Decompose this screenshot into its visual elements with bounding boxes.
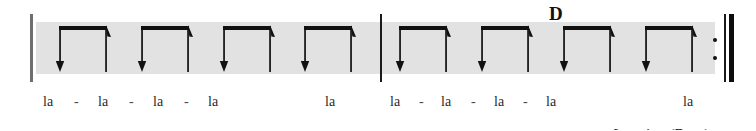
downstroke-arrowhead-2 <box>138 61 146 72</box>
strum-group-8 <box>638 26 700 80</box>
strum-group-5 <box>392 26 454 80</box>
caption-italic: Last time <box>613 126 667 131</box>
downstroke-arrowhead-5 <box>396 61 404 72</box>
strum-group-6 <box>474 26 536 80</box>
lyric-syllable-7: la <box>325 95 335 109</box>
beam-6 <box>481 26 529 30</box>
upstroke-stem-1 <box>105 28 107 72</box>
upstroke-stem-3 <box>269 28 271 72</box>
lyric-syllable-10: la <box>441 95 451 109</box>
beam-8 <box>645 26 693 30</box>
downstroke-arrowhead-8 <box>642 61 650 72</box>
downstroke-stem-7 <box>563 26 565 65</box>
beam-3 <box>223 26 271 30</box>
downstroke-arrowhead-1 <box>56 61 64 72</box>
repeat-dot-1 <box>713 38 717 42</box>
beam-5 <box>399 26 447 30</box>
downstroke-stem-2 <box>141 26 143 65</box>
downstroke-stem-5 <box>399 26 401 65</box>
repeat-thick-barline <box>729 14 734 82</box>
lyric-syllable-2: la <box>98 95 108 109</box>
downstroke-arrowhead-4 <box>301 61 309 72</box>
opening-barline <box>30 14 33 82</box>
strum-group-3 <box>216 26 278 80</box>
chord-symbol-D: D <box>549 4 563 23</box>
lyric-syllable-6: la <box>208 95 218 109</box>
beam-1 <box>59 26 107 30</box>
lyric-syllable-14: la <box>546 95 556 109</box>
last-time-caption: Last time (Does) <box>598 112 709 130</box>
lyric-dash-5: - <box>184 95 189 109</box>
lyric-syllable-15: la <box>683 95 693 109</box>
strum-group-7 <box>556 26 618 80</box>
downstroke-stem-1 <box>59 26 61 65</box>
downstroke-arrowhead-6 <box>478 61 486 72</box>
upstroke-stem-5 <box>445 28 447 72</box>
repeat-dot-2 <box>713 56 717 60</box>
lyric-syllable-12: la <box>494 95 504 109</box>
lyric-syllable-0: la <box>43 95 53 109</box>
lyric-dash-13: - <box>523 95 528 109</box>
beam-7 <box>563 26 611 30</box>
beam-2 <box>141 26 189 30</box>
strum-group-4 <box>297 26 359 80</box>
strum-pattern-figure: D la-la-la-lalala-la-la-lala Last time (… <box>0 0 756 130</box>
middle-barline <box>380 14 382 82</box>
downstroke-arrowhead-7 <box>560 61 568 72</box>
caption-roman: (Does) <box>666 126 709 131</box>
downstroke-stem-6 <box>481 26 483 65</box>
downstroke-arrowhead-3 <box>220 61 228 72</box>
strum-group-1 <box>52 26 114 80</box>
lyric-dash-11: - <box>471 95 476 109</box>
downstroke-stem-8 <box>645 26 647 65</box>
upstroke-stem-6 <box>527 28 529 72</box>
upstroke-stem-2 <box>187 28 189 72</box>
upstroke-stem-8 <box>691 28 693 72</box>
upstroke-stem-7 <box>609 28 611 72</box>
repeat-thin-barline <box>724 14 726 82</box>
lyric-syllable-8: la <box>390 95 400 109</box>
lyric-dash-3: - <box>129 95 134 109</box>
lyric-dash-1: - <box>74 95 79 109</box>
strum-group-2 <box>134 26 196 80</box>
downstroke-stem-4 <box>304 26 306 65</box>
lyric-dash-9: - <box>419 95 424 109</box>
downstroke-stem-3 <box>223 26 225 65</box>
lyric-syllable-4: la <box>153 95 163 109</box>
upstroke-stem-4 <box>350 28 352 72</box>
beam-4 <box>304 26 352 30</box>
